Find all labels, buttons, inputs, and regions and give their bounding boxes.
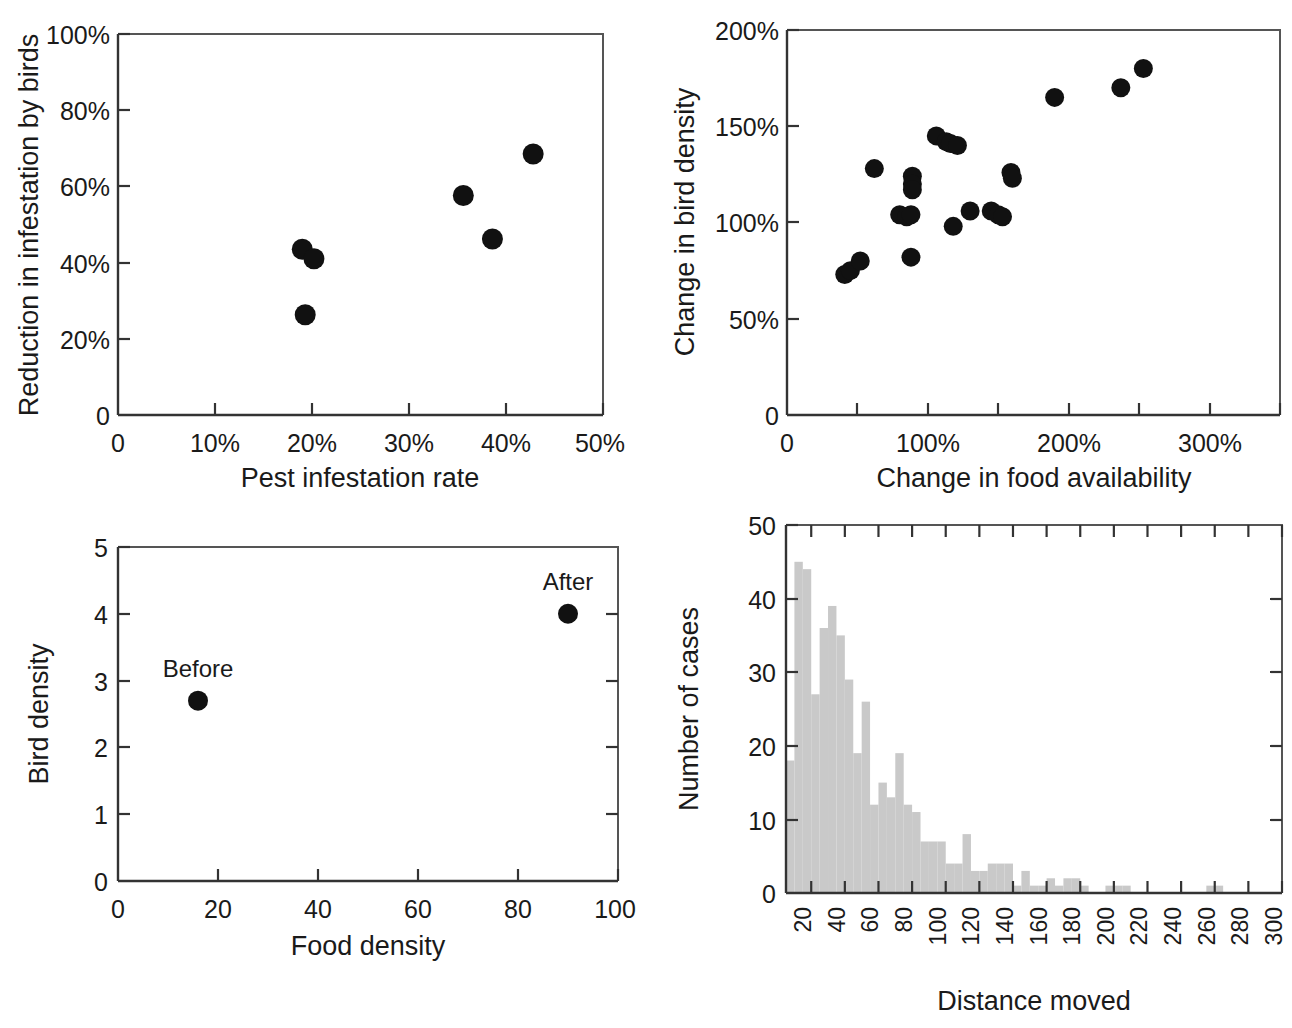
panel-a-xtick-20: 20%: [287, 429, 337, 457]
panel-d-svg: 50 40 30 20 10 0 20406080100120140160180…: [646, 500, 1292, 1028]
x-tick-label: 220: [1126, 907, 1152, 945]
histogram-bar: [803, 569, 811, 893]
data-point: [482, 228, 503, 249]
x-tick-label: 240: [1160, 907, 1186, 945]
panel-d-x-axis-title: Distance moved: [937, 986, 1131, 1016]
x-tick-label: 140: [992, 907, 1018, 945]
data-point: [961, 201, 980, 220]
histogram-bar: [811, 694, 819, 893]
panel-a-x-axis-title: Pest infestation rate: [241, 463, 480, 493]
panel-b-ytick-150: 150%: [715, 113, 779, 141]
panel-c-ytick-1: 1: [94, 801, 108, 829]
panel-b-scatter: 200% 150% 100% 50% 0 0 100% 200% 300% Ch…: [646, 0, 1292, 500]
panel-b-plot-area: 200% 150% 100% 50% 0 0 100% 200% 300% Ch…: [670, 17, 1280, 493]
histogram-bar: [786, 761, 794, 893]
panel-b-xtick-100: 100%: [896, 429, 960, 457]
panel-b-y-ticks: [787, 30, 799, 319]
histogram-bar: [836, 635, 844, 893]
panel-c-xtick-80: 80: [504, 895, 532, 923]
panel-a-xtick-0: 0: [111, 429, 125, 457]
panel-b-xtick-300: 300%: [1178, 429, 1242, 457]
data-point-label: Before: [163, 655, 234, 682]
panel-d-histogram: 50 40 30 20 10 0 20406080100120140160180…: [646, 500, 1292, 1028]
panel-c-y-tick-labels: 5 4 3 2 1 0: [94, 534, 108, 896]
data-point: [558, 604, 578, 624]
data-point: [903, 180, 922, 199]
panel-c-plot-area: 5 4 3 2 1 0 0 20 40 60 80 100 Food densi…: [24, 534, 636, 961]
x-tick-label: 20: [790, 907, 816, 933]
panel-a-frame: [118, 34, 603, 415]
panel-c-ytick-3: 3: [94, 668, 108, 696]
panel-b-x-ticks: [857, 403, 1280, 415]
four-panel-figure: 100% 80% 60% 40% 20% 0 0 10% 20% 30% 40%…: [0, 0, 1292, 1028]
x-tick-label: 40: [824, 907, 850, 933]
panel-c-ytick-2: 2: [94, 734, 108, 762]
data-point: [295, 304, 316, 325]
panel-d-ytick-20: 20: [748, 733, 776, 761]
panel-a-ytick-60: 60%: [60, 173, 110, 201]
panel-a-y-ticks: [118, 34, 130, 339]
x-tick-label: 100: [925, 907, 951, 945]
panel-d-ytick-30: 30: [748, 659, 776, 687]
histogram-bar: [870, 805, 878, 893]
panel-c-point-labels: BeforeAfter: [163, 568, 594, 682]
histogram-bar: [937, 841, 945, 893]
panel-c-xtick-0: 0: [111, 895, 125, 923]
panel-b-ytick-200: 200%: [715, 17, 779, 45]
histogram-bar: [988, 864, 996, 893]
panel-b-xtick-0: 0: [780, 429, 794, 457]
panel-c-ytick-0: 0: [94, 868, 108, 896]
x-tick-label: 60: [857, 907, 883, 933]
panel-b-xtick-200: 200%: [1037, 429, 1101, 457]
panel-b-ytick-100: 100%: [715, 209, 779, 237]
data-point: [993, 207, 1012, 226]
histogram-bar: [954, 864, 962, 893]
panel-c-xtick-40: 40: [304, 895, 332, 923]
panel-a-ytick-0: 0: [96, 402, 110, 430]
panel-c-x-tick-labels: 0 20 40 60 80 100: [111, 895, 636, 923]
panel-a-y-axis-title: Reduction in infestation by birds: [14, 34, 44, 417]
histogram-bar: [971, 871, 979, 893]
panel-c-y-axis-title: Bird density: [24, 643, 54, 785]
histogram-bar: [845, 680, 853, 893]
panel-d-y-tick-labels: 50 40 30 20 10 0: [748, 512, 776, 908]
panel-d-x-tick-labels: 2040608010012014016018020022024026028030…: [790, 907, 1287, 945]
panel-a-xtick-10: 10%: [190, 429, 240, 457]
panel-c-frame: [118, 547, 618, 881]
panel-a-ytick-20: 20%: [60, 326, 110, 354]
histogram-bar: [963, 834, 971, 893]
panel-b-data-points: [835, 59, 1153, 284]
panel-a-xtick-40: 40%: [481, 429, 531, 457]
histogram-bar: [1072, 878, 1080, 893]
x-tick-label: 280: [1227, 907, 1253, 945]
panel-d-y-axis-title: Number of cases: [674, 607, 704, 811]
x-tick-label: 200: [1093, 907, 1119, 945]
histogram-bar: [820, 628, 828, 893]
data-point-label: After: [543, 568, 594, 595]
x-tick-label: 160: [1026, 907, 1052, 945]
panel-d-ytick-10: 10: [748, 807, 776, 835]
panel-c-x-ticks: [218, 869, 618, 881]
data-point: [523, 144, 544, 165]
panel-b-ytick-50: 50%: [729, 306, 779, 334]
data-point: [851, 252, 870, 271]
panel-d-ytick-40: 40: [748, 586, 776, 614]
histogram-bar: [862, 702, 870, 893]
panel-b-y-tick-labels: 200% 150% 100% 50% 0: [715, 17, 779, 430]
data-point: [944, 217, 963, 236]
data-point: [453, 185, 474, 206]
histogram-bar: [828, 606, 836, 893]
panel-b-x-tick-labels: 0 100% 200% 300%: [780, 429, 1242, 457]
panel-b-x-axis-title: Change in food availability: [876, 463, 1192, 493]
data-point: [188, 691, 208, 711]
panel-a-xtick-30: 30%: [384, 429, 434, 457]
panel-c-x-axis-title: Food density: [291, 931, 446, 961]
histogram-bar: [853, 753, 861, 893]
histogram-bar: [1005, 864, 1013, 893]
x-tick-label: 180: [1059, 907, 1085, 945]
panel-a-ytick-40: 40%: [60, 250, 110, 278]
histogram-bar: [1047, 878, 1055, 893]
data-point: [948, 136, 967, 155]
x-tick-label: 120: [958, 907, 984, 945]
panel-c-xtick-100: 100: [594, 895, 636, 923]
